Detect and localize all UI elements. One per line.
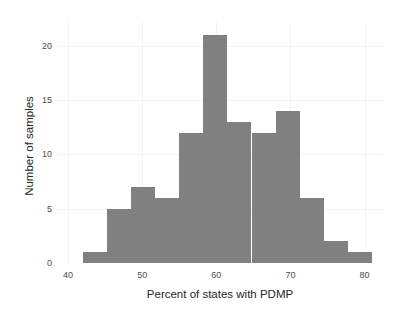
y-tick-label: 20 (26, 41, 52, 51)
x-tick-label: 60 (196, 270, 236, 280)
histogram-bar (252, 133, 276, 263)
histogram-bar (300, 198, 324, 263)
y-tick-label: 0 (26, 258, 52, 268)
histogram-bar (155, 198, 179, 263)
plot-panel (57, 22, 383, 263)
histogram-bar (348, 252, 372, 263)
histogram-bar (324, 241, 348, 263)
x-tick-label: 40 (48, 270, 88, 280)
histogram-bars (57, 22, 383, 263)
histogram-bar (227, 122, 251, 263)
x-axis-line (57, 263, 383, 264)
x-axis-ticks: 4050607080 (0, 270, 414, 284)
histogram-bar (203, 35, 227, 263)
x-tick-label: 70 (270, 270, 310, 280)
x-axis-title: Percent of states with PDMP (57, 288, 383, 300)
histogram-bar (107, 209, 131, 263)
histogram-bar (83, 252, 107, 263)
histogram-bar (276, 111, 300, 263)
histogram-bar (131, 187, 155, 263)
x-tick-label: 80 (345, 270, 385, 280)
y-axis-title: Number of samples (23, 51, 35, 241)
histogram-bar (179, 133, 203, 263)
histogram-figure: 05101520 4050607080 Percent of states wi… (0, 0, 414, 321)
x-tick-label: 50 (122, 270, 162, 280)
